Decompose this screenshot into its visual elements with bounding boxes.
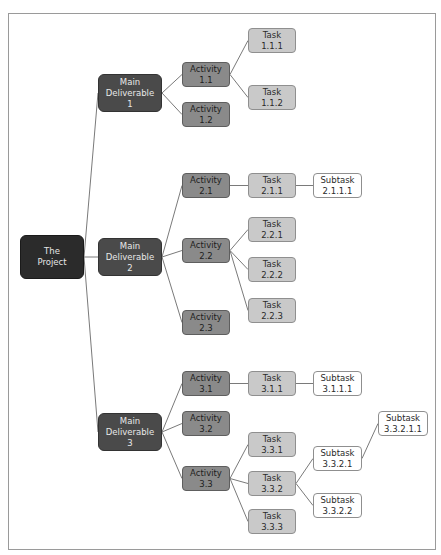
connector-t332-s3321 [296,459,313,484]
connector-s3321-s33211 [362,424,378,459]
connector-root-md3 [84,257,98,432]
connector-md2-a23 [162,257,182,323]
connector-t332-s3322 [296,484,313,506]
task-node-t223: Task 2.2.3 [248,298,296,323]
task-node-t111: Task 1.1.1 [248,28,296,53]
connector-a22-t221 [230,230,248,251]
activity-node-a32: Activity 3.2 [182,411,230,436]
subtask-node-s3321: Subtask 3.3.2.1 [313,446,362,471]
activity-node-a21: Activity 2.1 [182,173,230,198]
deliverable-node-md3: Main Deliverable 3 [98,413,162,451]
connector-a11-t112 [230,75,248,98]
task-node-t112: Task 1.1.2 [248,85,296,110]
connector-md1-a11 [162,75,182,94]
task-node-t222: Task 2.2.2 [248,257,296,282]
activity-node-a33: Activity 3.3 [182,466,230,491]
activity-node-a12: Activity 1.2 [182,102,230,127]
connector-a33-t331 [230,445,248,479]
connector-md2-a21 [162,186,182,258]
activity-node-a23: Activity 2.3 [182,310,230,335]
subtask-node-s2111: Subtask 2.1.1.1 [313,173,362,198]
subtask-node-s3322: Subtask 3.3.2.2 [313,493,362,518]
deliverable-node-md2: Main Deliverable 2 [98,238,162,276]
connector-root-md1 [84,93,98,257]
connector-md1-a12 [162,93,182,115]
activity-node-a11: Activity 1.1 [182,62,230,87]
activity-node-a22: Activity 2.2 [182,238,230,263]
task-node-t331: Task 3.3.1 [248,432,296,457]
subtask-node-s3111: Subtask 3.1.1.1 [313,371,362,396]
subtask-node-s33211: Subtask 3.3.2.1.1 [378,411,428,436]
connector-a11-t111 [230,41,248,75]
deliverable-node-md1: Main Deliverable 1 [98,74,162,112]
task-node-t333: Task 3.3.3 [248,509,296,534]
connector-a33-t332 [230,479,248,484]
connector-md3-a33 [162,432,182,479]
activity-node-a31: Activity 3.1 [182,371,230,396]
root-node-root: The Project [20,235,84,279]
task-node-t311: Task 3.1.1 [248,371,296,396]
task-node-t332: Task 3.3.2 [248,471,296,496]
task-node-t211: Task 2.1.1 [248,173,296,198]
connector-a33-t333 [230,479,248,522]
connector-md2-a22 [162,251,182,258]
task-node-t221: Task 2.2.1 [248,217,296,242]
